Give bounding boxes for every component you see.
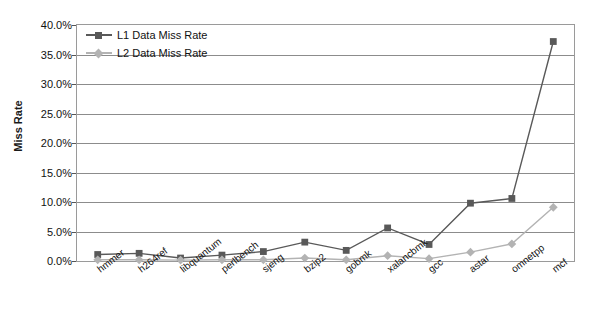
data-point-marker (550, 38, 557, 45)
legend-swatch-square-icon (86, 29, 112, 41)
y-axis-tick-label: 30.0% (24, 78, 72, 90)
data-point-marker (342, 255, 351, 264)
data-point-marker (343, 247, 350, 254)
data-point-marker (259, 255, 268, 264)
data-point-marker (384, 225, 391, 232)
data-point-marker (301, 239, 308, 246)
legend-item-series2: L2 Data Miss Rate (86, 45, 207, 61)
chart-legend: L1 Data Miss Rate L2 Data Miss Rate (86, 27, 207, 63)
legend-label-series1: L1 Data Miss Rate (117, 29, 207, 41)
y-axis-tick-label: 5.0% (24, 226, 72, 238)
y-axis-tick-label: 15.0% (24, 167, 72, 179)
y-axis-tick-label: 35.0% (24, 49, 72, 61)
y-axis-tick-label: 40.0% (24, 19, 72, 31)
series-line (98, 42, 554, 259)
legend-item-series1: L1 Data Miss Rate (86, 27, 207, 43)
data-point-marker (135, 255, 144, 264)
y-axis-tick-label: 20.0% (24, 137, 72, 149)
y-axis-tick-label: 10.0% (24, 196, 72, 208)
data-point-marker (466, 248, 475, 257)
legend-label-series2: L2 Data Miss Rate (117, 47, 207, 59)
chart-container: Miss Rate 0.0%5.0%10.0%15.0%20.0%25.0%30… (0, 0, 590, 332)
data-point-marker (260, 248, 267, 255)
y-axis-tick-label: 0.0% (24, 255, 72, 267)
data-point-marker (425, 254, 434, 263)
y-axis-tick-label: 25.0% (24, 108, 72, 120)
data-point-marker (426, 241, 433, 248)
legend-swatch-diamond-icon (86, 47, 112, 59)
data-point-marker (300, 254, 309, 263)
y-axis-tick-labels: 0.0%5.0%10.0%15.0%20.0%25.0%30.0%35.0%40… (20, 0, 72, 332)
data-point-marker (467, 200, 474, 207)
data-point-marker (383, 251, 392, 260)
series-line (98, 207, 554, 260)
data-point-marker (508, 195, 515, 202)
